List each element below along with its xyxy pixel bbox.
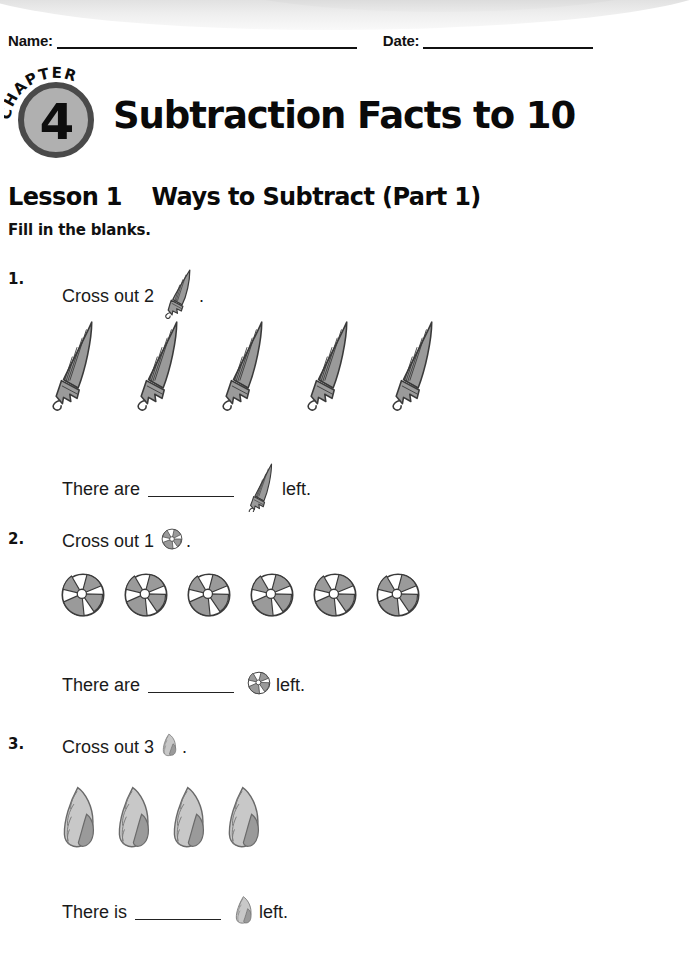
umbrella-icon xyxy=(248,462,276,517)
answer-line: There are left. xyxy=(62,462,311,517)
chapter-badge: CHAPTER 4 xyxy=(4,64,108,168)
seashell-icon[interactable] xyxy=(115,785,153,855)
seashell-icon xyxy=(161,733,179,762)
question-number: 3. xyxy=(8,735,24,753)
question-number: 2. xyxy=(8,530,24,548)
prompt-text: Cross out 1 xyxy=(62,531,154,552)
seashell-icon xyxy=(234,895,254,930)
beach-ball-icon[interactable] xyxy=(60,572,106,622)
beach-ball-group xyxy=(60,572,421,622)
prompt-period: . xyxy=(182,737,187,758)
beach-ball-icon[interactable] xyxy=(375,572,421,622)
seashell-icon[interactable] xyxy=(225,785,263,855)
umbrella-icon[interactable] xyxy=(307,318,353,418)
umbrella-icon[interactable] xyxy=(137,318,183,418)
seashell-icon[interactable] xyxy=(170,785,208,855)
prompt-period: . xyxy=(199,286,204,307)
answer-prefix: There is xyxy=(62,902,127,923)
seashell-group xyxy=(60,785,263,855)
name-label: Name: xyxy=(8,32,53,49)
instruction-text: Fill in the blanks. xyxy=(8,221,151,239)
seashell-icon[interactable] xyxy=(60,785,98,855)
umbrella-icon[interactable] xyxy=(392,318,438,418)
lesson-heading: Lesson 1 Ways to Subtract (Part 1) xyxy=(8,183,481,211)
answer-suffix: left. xyxy=(259,902,288,923)
name-date-row: Name: Date: xyxy=(8,32,633,49)
answer-blank[interactable] xyxy=(135,906,221,920)
chapter-number: 4 xyxy=(18,84,94,160)
answer-line: There are left. xyxy=(62,671,305,700)
question-prompt: Cross out 3 . xyxy=(62,733,187,762)
umbrella-icon[interactable] xyxy=(222,318,268,418)
umbrella-group xyxy=(52,318,438,418)
prompt-text: Cross out 3 xyxy=(62,737,154,758)
page-edge-shadow xyxy=(0,0,694,30)
lesson-title: Ways to Subtract (Part 1) xyxy=(152,183,481,211)
answer-suffix: left. xyxy=(276,675,305,696)
answer-prefix: There are xyxy=(62,479,140,500)
umbrella-icon xyxy=(162,268,196,325)
question-prompt: Cross out 1 . xyxy=(62,528,191,555)
lesson-label: Lesson 1 xyxy=(8,183,122,211)
beach-ball-icon xyxy=(161,528,183,555)
name-input[interactable] xyxy=(57,33,357,49)
page-title: Subtraction Facts to 10 xyxy=(113,94,575,137)
prompt-text: Cross out 2 xyxy=(62,286,154,307)
answer-suffix: left. xyxy=(282,479,311,500)
date-label: Date: xyxy=(383,32,420,49)
prompt-period: . xyxy=(186,531,191,552)
question-number: 1. xyxy=(8,270,24,288)
answer-blank[interactable] xyxy=(148,679,234,693)
beach-ball-icon[interactable] xyxy=(249,572,295,622)
answer-blank[interactable] xyxy=(148,483,234,497)
umbrella-icon[interactable] xyxy=(52,318,98,418)
beach-ball-icon[interactable] xyxy=(186,572,232,622)
beach-ball-icon xyxy=(247,671,271,700)
question-prompt: Cross out 2 . xyxy=(62,268,204,325)
date-input[interactable] xyxy=(423,33,593,49)
beach-ball-icon[interactable] xyxy=(123,572,169,622)
answer-prefix: There are xyxy=(62,675,140,696)
answer-line: There is left. xyxy=(62,895,288,930)
beach-ball-icon[interactable] xyxy=(312,572,358,622)
